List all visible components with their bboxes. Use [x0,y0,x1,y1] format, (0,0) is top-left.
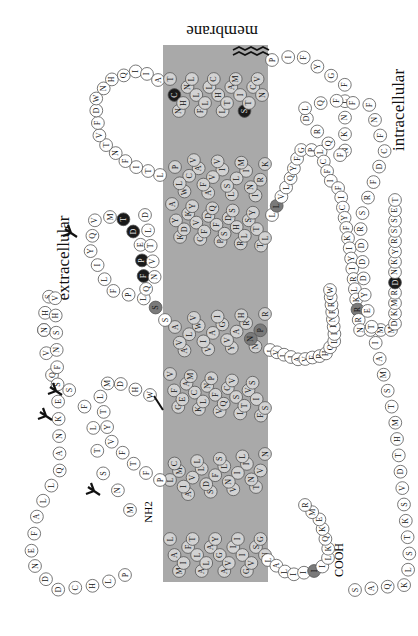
svg-text:V: V [277,194,286,200]
svg-text:L: L [238,454,247,459]
residue: V [222,557,235,570]
residue: Q [86,229,99,242]
svg-text:L: L [187,76,196,81]
residue: Q [206,202,219,215]
svg-text:F: F [53,364,62,369]
svg-text:N: N [113,487,122,493]
svg-text:I: I [179,561,188,564]
svg-text:L: L [268,212,277,217]
svg-text:T: T [403,535,412,540]
residue: R [259,308,272,321]
svg-text:F: F [199,182,208,187]
residue: S [259,402,272,415]
residue: V [211,155,224,168]
residue: C [168,457,181,470]
svg-text:P: P [207,376,216,381]
membrane-label: membrane [186,22,258,41]
svg-text:T: T [166,76,175,81]
svg-text:H: H [179,100,188,106]
svg-text:I: I [348,267,357,270]
residue: Y [311,60,324,73]
svg-text:N: N [371,117,380,123]
svg-text:L: L [202,560,211,565]
svg-text:A: A [168,201,177,207]
svg-text:F: F [80,404,89,409]
svg-text:L: L [166,477,175,482]
svg-text:Q: Q [55,467,64,473]
residue: D [127,225,140,238]
residue: P [119,569,132,582]
residue: K [52,413,65,426]
svg-text:L: L [272,203,281,208]
residue: G [254,533,267,546]
svg-text:Y: Y [340,215,349,221]
residue: Y [84,245,97,258]
residue: T [142,165,155,178]
svg-text:C: C [338,205,347,210]
residue: S [63,384,76,397]
svg-text:K: K [391,259,400,265]
svg-text:T: T [252,227,261,232]
svg-text:T: T [391,197,400,202]
svg-text:Q: Q [324,140,333,146]
svg-text:S: S [223,184,232,188]
svg-text:H: H [393,436,402,442]
svg-text:M: M [186,373,195,380]
svg-text:T: T [119,217,128,222]
svg-text:F: F [212,222,221,227]
residue: I [369,336,382,349]
svg-text:F: F [334,185,343,190]
svg-text:L: L [39,498,48,503]
residue: H [49,309,62,322]
svg-text:Q: Q [88,233,97,239]
residue: V [221,334,234,347]
residue: K [339,128,352,141]
residue: H [177,97,190,110]
residue: S [218,227,231,240]
svg-text:L: L [201,100,210,105]
residue: F [297,51,310,64]
residue: D [355,239,368,252]
svg-text:S: S [65,388,74,392]
residue: V [245,557,258,570]
residue: C [69,581,82,594]
svg-text:Y: Y [86,248,95,254]
residue: T [97,406,110,419]
svg-text:D: D [129,228,138,234]
residue: L [87,422,100,435]
svg-text:A: A [375,356,384,362]
svg-text:V: V [175,340,184,346]
svg-text:R: R [356,226,365,232]
svg-text:C: C [380,148,389,153]
residue: H [235,309,248,322]
residue: G [325,69,338,82]
residue: F [334,149,347,162]
svg-text:N: N [246,184,255,190]
residue: D [394,465,407,478]
svg-text:F: F [369,179,378,184]
residue: T [164,73,177,86]
residue: I [282,51,295,64]
residue: F [28,527,41,540]
residue: L [94,390,107,403]
residue: S [149,301,162,314]
svg-text:Y: Y [391,248,400,254]
svg-text:P: P [138,258,147,263]
svg-text:V: V [90,217,99,223]
residue: N [244,181,257,194]
svg-text:V: V [224,560,233,566]
svg-text:V: V [256,467,265,473]
residue: Q [117,69,130,82]
svg-text:H: H [214,92,223,98]
svg-text:N: N [52,347,61,353]
svg-text:S: S [232,395,241,399]
svg-text:I: I [132,165,141,168]
disulfide-bond-line [154,396,163,410]
residue: M [235,156,248,169]
residue: Y [247,206,260,219]
svg-text:L: L [192,92,201,97]
svg-text:V: V [148,258,157,264]
svg-text:V: V [95,132,104,138]
svg-text:R: R [391,289,400,295]
residue: R [354,223,367,236]
